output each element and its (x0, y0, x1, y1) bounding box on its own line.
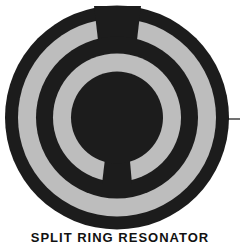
center-disk (71, 72, 163, 164)
diagram-title: SPLIT RING RESONATOR (0, 230, 240, 245)
resonator (5, 6, 229, 230)
outer-split-bridge (94, 6, 141, 40)
